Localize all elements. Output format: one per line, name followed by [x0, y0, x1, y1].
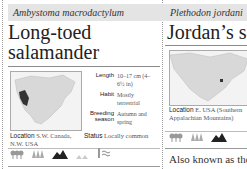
species-card-long-toed-salamander: Ambystoma macrodactylum Long-toed salama… [0, 0, 160, 169]
common-name: Jordan’s sa [167, 22, 247, 43]
range-map [10, 71, 82, 131]
mountain-icon [52, 145, 68, 163]
description-text: Also known as the [169, 153, 247, 165]
common-name-line2: salamander [8, 42, 99, 63]
column-divider-dotted-line [162, 0, 163, 169]
coniferous-forest-icon [191, 128, 203, 146]
mountain-icon [211, 128, 227, 146]
north-america-map-icon [170, 51, 247, 105]
facts-list: Length10–17 cm (4–6½ in) HabitMostly ter… [84, 72, 155, 129]
coniferous-forest-icon [32, 145, 44, 163]
north-america-map-icon [11, 72, 81, 130]
fact-habit: HabitMostly terrestrial [84, 91, 155, 107]
habitat-icons [169, 134, 227, 146]
divider [165, 45, 247, 46]
location: Location E. USA (Southern Appalachian Mo… [169, 106, 247, 122]
fact-length: Length10–17 cm (4–6½ in) [84, 72, 155, 88]
freshwater-icon [96, 145, 110, 163]
deciduous-forest-icon [10, 145, 24, 163]
latin-name: Plethodon jordani [165, 4, 247, 21]
divider [8, 166, 160, 167]
habitat-icons [10, 151, 110, 163]
grassland-icon [76, 145, 88, 163]
divider [165, 148, 247, 149]
divider [8, 66, 160, 67]
deciduous-forest-icon [169, 128, 183, 146]
species-card-jordans-salamander: Plethodon jordani Jordan’s sa Location E… [165, 0, 247, 169]
fact-breeding-season: Breeding seasonAutumn and spring [84, 110, 155, 126]
common-name-line1: Long-toed [8, 22, 91, 43]
status: Status Locally common [84, 132, 160, 140]
range-map [169, 50, 247, 106]
latin-name: Ambystoma macrodactylum [8, 4, 165, 21]
